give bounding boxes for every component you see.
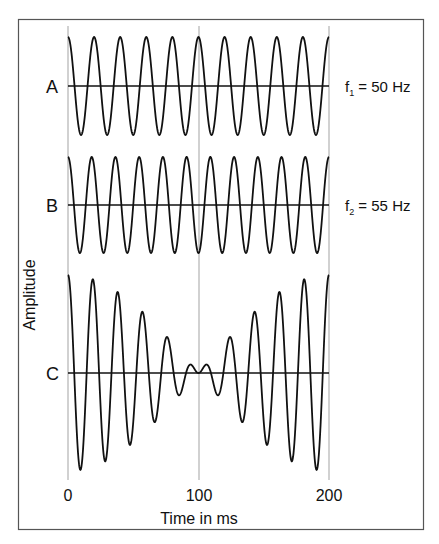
- chart-frame: [19, 20, 424, 530]
- x-tick-200: 200: [316, 487, 343, 504]
- x-axis-label: Time in ms: [160, 510, 238, 527]
- x-tick-100: 100: [186, 487, 213, 504]
- row-label-c: C: [46, 364, 59, 384]
- x-tick-0: 0: [64, 487, 73, 504]
- y-axis-label: Amplitude: [21, 259, 38, 330]
- row-label-b: B: [46, 196, 58, 216]
- row-label-a: A: [46, 77, 58, 97]
- beat-frequency-chart: A B C f1 = 50 Hz f2 = 55 Hz Amplitude 0 …: [0, 0, 439, 544]
